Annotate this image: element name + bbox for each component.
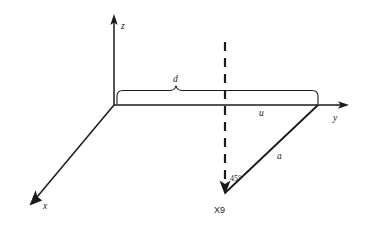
- angle-label: 45°: [230, 174, 241, 183]
- segment-a-label: a: [277, 151, 282, 161]
- dashed-vertical-group: [220, 42, 231, 195]
- x-axis-group: x: [30, 105, 115, 211]
- x-axis-label: x: [42, 201, 48, 211]
- z-axis-label: z: [120, 21, 125, 31]
- segment-u-label: u: [259, 108, 264, 118]
- diagram-canvas: z y x d a 45° u: [0, 0, 365, 226]
- y-axis-label: y: [332, 113, 338, 123]
- distance-brace-icon: [117, 86, 318, 105]
- z-axis-group: z: [110, 14, 125, 105]
- coordinate-diagram-svg: z y x d a 45° u: [0, 0, 365, 226]
- y-axis-group: y: [114, 101, 349, 123]
- distance-brace-group: d: [117, 74, 318, 104]
- distance-brace-label: d: [173, 74, 178, 84]
- x-axis-line: [37, 105, 114, 197]
- point-label: X9: [214, 205, 225, 215]
